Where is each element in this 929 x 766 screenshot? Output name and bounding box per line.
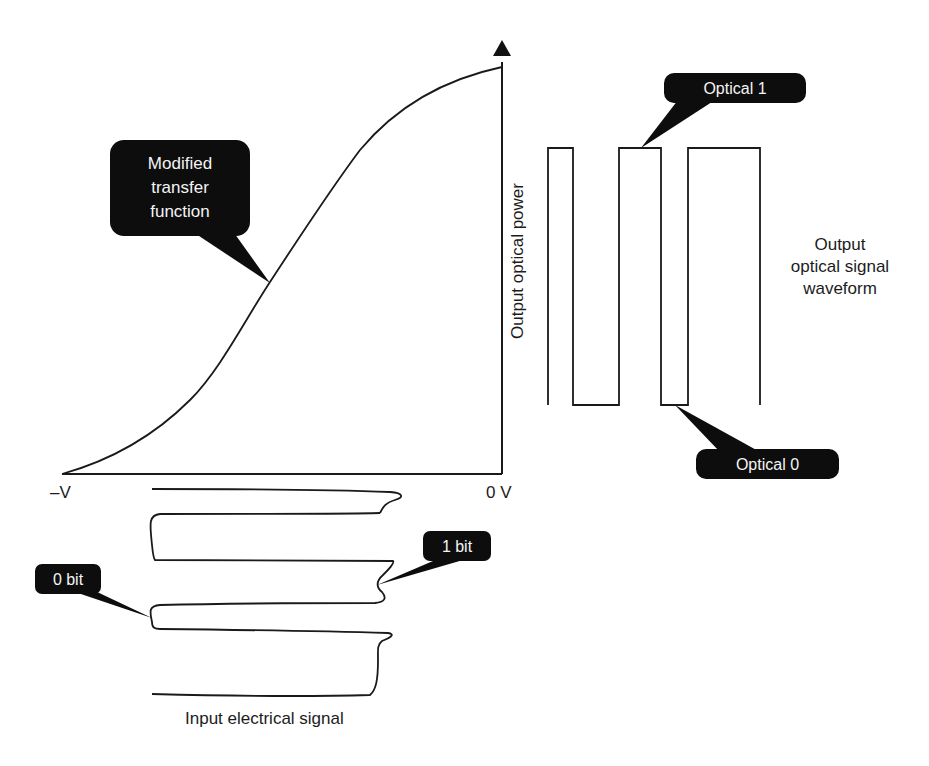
one-bit-callout: 1 bit	[423, 531, 491, 561]
zero-bit-label: 0 bit	[53, 570, 83, 589]
input-trace-2	[150, 513, 393, 696]
input-trace-1	[152, 489, 401, 513]
one-bit-label: 1 bit	[442, 537, 472, 556]
optical-0-callout: Optical 0	[696, 449, 839, 479]
y-axis-label: Output optical power	[508, 161, 528, 361]
transfer-callout-line-1: Modified	[148, 152, 212, 176]
optical-1-callout: Optical 1	[664, 73, 806, 103]
output-waveform-label-line-2: optical signal	[770, 256, 910, 278]
one-bit-callout-pointer	[377, 558, 470, 585]
axes	[62, 62, 502, 474]
transfer-callout-line-2: transfer	[151, 176, 209, 200]
optical-1-callout-pointer	[641, 100, 715, 148]
output-waveform-label-line-1: Output	[770, 234, 910, 256]
input-electrical-waveform	[150, 489, 401, 696]
output-waveform-label: Output optical signal waveform	[770, 234, 910, 300]
transfer-function-callout: Modified transfer function	[110, 140, 250, 236]
optical-1-label: Optical 1	[703, 79, 766, 98]
diagram-canvas	[0, 0, 929, 766]
y-axis-arrowhead-icon	[493, 40, 511, 56]
optical-0-callout-pointer	[675, 405, 760, 452]
zero-bit-callout-pointer	[72, 591, 152, 618]
optical-0-label: Optical 0	[736, 455, 799, 474]
transfer-callout-line-3: function	[150, 200, 210, 224]
transfer-callout-pointer	[190, 230, 270, 283]
input-signal-caption: Input electrical signal	[185, 709, 344, 728]
zero-bit-callout: 0 bit	[35, 564, 101, 594]
output-waveform-label-line-3: waveform	[770, 278, 910, 300]
x-axis-min-label: –V	[50, 483, 71, 502]
output-optical-waveform	[548, 148, 760, 405]
transfer-function-curve	[62, 67, 502, 474]
x-axis-max-label: 0 V	[486, 483, 512, 502]
